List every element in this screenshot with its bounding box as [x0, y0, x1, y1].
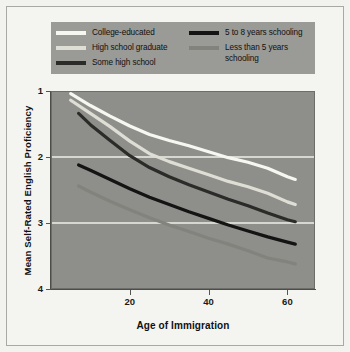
- legend-label-some-high-school: Some high school: [92, 56, 155, 68]
- legend-label-college-educated: College-educated: [92, 26, 155, 38]
- x-tick-mark: [209, 290, 210, 295]
- y-tick-mark: [46, 157, 51, 158]
- x-axis-title: Age of Immigration: [51, 320, 315, 331]
- legend-swatch-some-high-school: [56, 61, 86, 65]
- legend-swatch-less-than-5-years-schooling: [189, 46, 219, 50]
- legend-item: High school graduate: [56, 41, 187, 56]
- legend-item: Some high school: [56, 56, 187, 71]
- x-tick-label: 20: [119, 296, 141, 307]
- legend-column-right: 5 to 8 years schooling Less than 5 years…: [187, 26, 315, 74]
- y-tick-mark: [46, 91, 51, 92]
- gridlines: [51, 157, 315, 289]
- legend-label-high-school-graduate: High school graduate: [92, 41, 167, 53]
- legend-column-left: College-educated High school graduate So…: [51, 26, 187, 74]
- y-axis-title: Mean Self-Rated English Proficiency: [22, 81, 33, 301]
- legend-swatch-college-educated: [56, 31, 86, 35]
- legend-label-less-than-5-years-schooling: Less than 5 years schooling: [225, 41, 288, 64]
- chart-legend: College-educated High school graduate So…: [51, 22, 315, 74]
- legend-swatch-high-school-graduate: [56, 46, 86, 50]
- y-tick-mark: [46, 223, 51, 224]
- series-line-less-than-5-years-schooling: [79, 186, 296, 264]
- legend-item: College-educated: [56, 26, 187, 41]
- y-tick-mark: [46, 289, 51, 290]
- x-tick-label: 60: [276, 296, 298, 307]
- legend-item: 5 to 8 years schooling: [189, 26, 315, 41]
- series-line-high-school-graduate: [71, 100, 296, 204]
- plot-area: [51, 91, 315, 289]
- legend-item: Less than 5 years schooling: [189, 41, 315, 69]
- series-lines: [71, 94, 296, 264]
- legend-label-5-to-8-years-schooling: 5 to 8 years schooling: [225, 26, 302, 38]
- x-tick-label: 40: [198, 296, 220, 307]
- x-axis-line: [50, 289, 316, 290]
- x-tick-mark: [287, 290, 288, 295]
- x-tick-mark: [130, 290, 131, 295]
- chart-figure: College-educated High school graduate So…: [0, 0, 350, 352]
- plot-svg: [51, 91, 315, 289]
- y-axis-line: [50, 91, 51, 290]
- legend-swatch-5-to-8-years-schooling: [189, 31, 219, 35]
